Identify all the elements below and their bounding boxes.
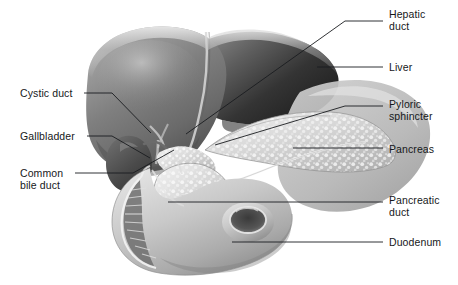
label-pyloric-sphincter: Pyloric sphincter bbox=[389, 98, 433, 122]
label-hepatic-duct: Hepatic duct bbox=[389, 8, 425, 32]
label-pancreas: Pancreas bbox=[389, 143, 434, 155]
label-liver: Liver bbox=[389, 61, 412, 73]
anatomy-figure: Hepatic duct Liver Pyloric sphincter Pan… bbox=[0, 0, 458, 285]
label-gallbladder: Gallbladder bbox=[20, 130, 75, 142]
label-cystic-duct: Cystic duct bbox=[20, 87, 72, 99]
label-pancreatic-duct: Pancreatic duct bbox=[389, 194, 440, 218]
label-common-bile-duct: Common bile duct bbox=[20, 167, 63, 191]
label-duodenum: Duodenum bbox=[389, 236, 441, 248]
